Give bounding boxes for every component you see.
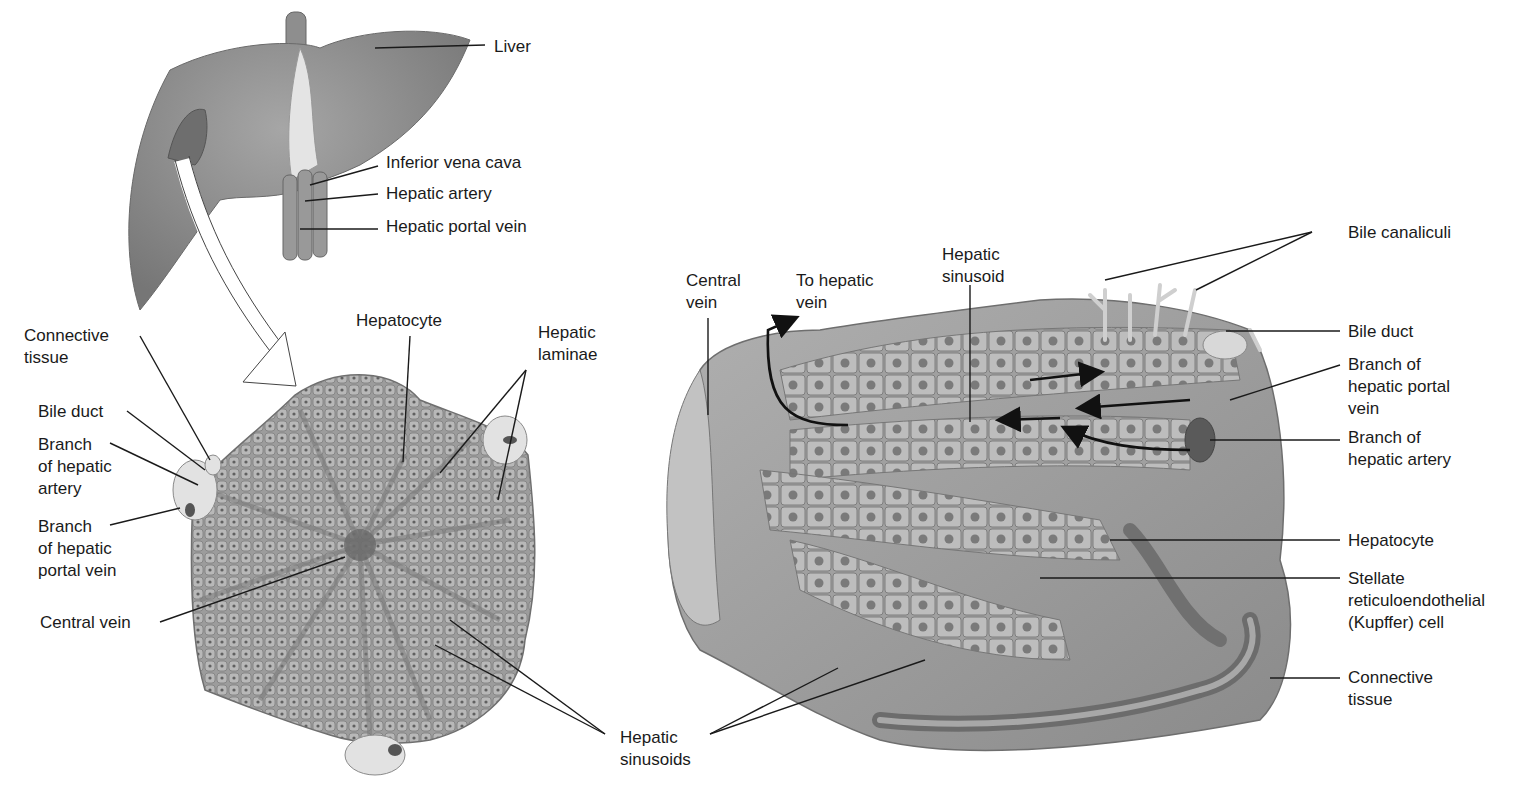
liver-diagram-artwork xyxy=(0,0,1527,805)
label-hepatic-sinusoid: Hepatic sinusoid xyxy=(942,244,1004,288)
label-bile-canaliculi: Bile canaliculi xyxy=(1348,222,1451,244)
lobule-3d-illustration xyxy=(667,285,1291,750)
label-3d-branch-portal-vein: Branch of hepatic portal vein xyxy=(1348,354,1450,420)
label-hepatic-artery: Hepatic artery xyxy=(386,183,492,205)
label-central-vein: Central vein xyxy=(40,612,131,634)
label-3d-hepatocyte: Hepatocyte xyxy=(1348,530,1434,552)
label-liver: Liver xyxy=(494,36,531,58)
label-3d-connective-tissue: Connective tissue xyxy=(1348,667,1433,711)
label-hepatic-laminae: Hepatic laminae xyxy=(538,322,598,366)
label-3d-branch-artery: Branch of hepatic artery xyxy=(1348,427,1451,471)
label-hepatocyte: Hepatocyte xyxy=(356,310,442,332)
label-3d-central-vein: Central vein xyxy=(686,270,741,314)
label-connective-tissue: Connective tissue xyxy=(24,325,109,369)
label-kupffer-cell: Stellate reticuloendothelial (Kupffer) c… xyxy=(1348,568,1485,634)
label-to-hepatic-vein: To hepatic vein xyxy=(796,270,874,314)
label-branch-hepatic-portal-vein: Branch of hepatic portal vein xyxy=(38,516,116,582)
label-3d-bile-duct: Bile duct xyxy=(1348,321,1413,343)
label-inferior-vena-cava: Inferior vena cava xyxy=(386,152,521,174)
label-bile-duct: Bile duct xyxy=(38,401,103,423)
hepatic-lobule-section xyxy=(173,375,535,775)
label-hepatic-sinusoids: Hepatic sinusoids xyxy=(620,727,691,771)
label-hepatic-portal-vein: Hepatic portal vein xyxy=(386,216,527,238)
label-branch-hepatic-artery: Branch of hepatic artery xyxy=(38,434,112,500)
